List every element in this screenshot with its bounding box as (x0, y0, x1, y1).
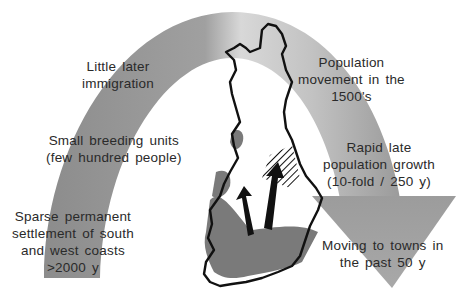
label-line: population growth (323, 156, 435, 173)
label-line: Moving to towns in (322, 237, 443, 254)
label-rapid-growth: Rapid late population growth (10-fold / … (323, 139, 435, 190)
label-line: movement in the (298, 71, 405, 88)
label-little-later-immigration: Little later immigration (82, 58, 154, 92)
label-line: Rapid late (323, 139, 435, 156)
label-line: 1500's (298, 88, 405, 105)
label-sparse-settlement: Sparse permanent settlement of south and… (12, 208, 134, 276)
label-line: the past 50 y (322, 254, 443, 271)
label-line: Little later (82, 58, 154, 75)
label-moving-to-towns: Moving to towns in the past 50 y (322, 237, 443, 271)
label-line: (few hundred people) (46, 149, 182, 166)
label-line: (10-fold / 250 y) (323, 173, 435, 190)
label-line: settlement of south (12, 225, 134, 242)
coastal-settlement-region (205, 197, 318, 278)
label-population-movement: Population movement in the 1500's (298, 54, 405, 105)
label-line: Population (298, 54, 405, 71)
label-line: >2000 y (12, 259, 134, 276)
label-line: Sparse permanent (12, 208, 134, 225)
label-line: and west coasts (12, 242, 134, 259)
label-small-breeding-units: Small breeding units (few hundred people… (46, 132, 182, 166)
hatched-migration-region (262, 145, 300, 188)
label-line: Small breeding units (46, 132, 182, 149)
label-line: immigration (82, 75, 154, 92)
